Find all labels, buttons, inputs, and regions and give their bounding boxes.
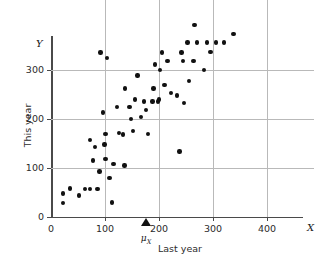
data-point xyxy=(123,86,127,90)
y-axis-tick-label: 200 xyxy=(14,114,44,124)
mu-x-marker xyxy=(141,218,151,226)
data-point xyxy=(179,50,183,54)
data-point xyxy=(95,187,99,191)
y-axis-tick xyxy=(47,119,51,120)
data-point xyxy=(110,200,114,204)
gridline-horizontal xyxy=(51,119,314,120)
data-point xyxy=(115,105,119,109)
y-axis-tick xyxy=(47,70,51,71)
data-point xyxy=(177,149,181,153)
data-point xyxy=(102,142,106,146)
data-point xyxy=(157,97,161,101)
y-axis-title: This year xyxy=(22,91,33,161)
data-point xyxy=(222,40,226,44)
data-point xyxy=(195,40,199,44)
data-point xyxy=(122,163,126,167)
data-point xyxy=(142,99,146,103)
plot-area xyxy=(51,0,314,217)
data-point xyxy=(77,193,81,197)
x-axis-line xyxy=(51,217,303,219)
data-point xyxy=(185,40,189,44)
x-axis-tick-label: 0 xyxy=(48,224,54,234)
y-axis-tick-label: 300 xyxy=(14,65,44,75)
data-point xyxy=(214,40,218,44)
data-point xyxy=(98,50,102,54)
data-point xyxy=(182,101,186,105)
x-axis-tick xyxy=(159,217,160,221)
mu-x-label: μX xyxy=(141,233,152,246)
data-point xyxy=(135,73,139,77)
data-point xyxy=(127,105,131,109)
y-axis-tick-label: 100 xyxy=(14,163,44,173)
data-point xyxy=(111,162,115,166)
x-axis-tick xyxy=(105,217,106,221)
gridline-vertical xyxy=(213,0,214,217)
gridline-vertical xyxy=(105,0,106,217)
data-point xyxy=(133,97,137,101)
data-point xyxy=(231,32,235,36)
x-axis-tick xyxy=(213,217,214,221)
data-point xyxy=(205,40,209,44)
x-axis-tick-label: 300 xyxy=(204,224,222,234)
data-point xyxy=(208,50,212,54)
y-axis-line xyxy=(51,36,53,218)
data-point xyxy=(151,86,155,90)
x-axis-tick-label: 200 xyxy=(150,224,168,234)
data-point xyxy=(175,93,179,97)
gridline-vertical xyxy=(267,0,268,217)
gridline-horizontal xyxy=(51,168,314,169)
x-axis-tick-label: 400 xyxy=(258,224,276,234)
y-axis-tick-label: 0 xyxy=(14,212,44,222)
data-point xyxy=(144,108,148,112)
data-point xyxy=(192,23,196,27)
gridline-vertical xyxy=(159,0,160,217)
scatter-plot-figure: Y X This year Last year 0100200300010020… xyxy=(0,0,324,266)
y-axis-tick xyxy=(47,168,51,169)
data-point xyxy=(162,83,166,87)
x-axis-symbol: X xyxy=(307,222,314,233)
data-point xyxy=(68,186,72,190)
y-axis-symbol: Y xyxy=(36,38,43,49)
gridline-horizontal xyxy=(51,70,314,71)
data-point xyxy=(160,50,164,54)
data-point xyxy=(150,99,154,103)
data-point xyxy=(121,132,125,136)
data-point xyxy=(107,176,111,180)
data-point xyxy=(97,169,101,173)
x-axis-tick xyxy=(267,217,268,221)
data-point xyxy=(61,191,65,195)
y-axis-tick xyxy=(47,217,51,218)
data-point xyxy=(101,110,105,114)
x-axis-tick-label: 100 xyxy=(96,224,114,234)
